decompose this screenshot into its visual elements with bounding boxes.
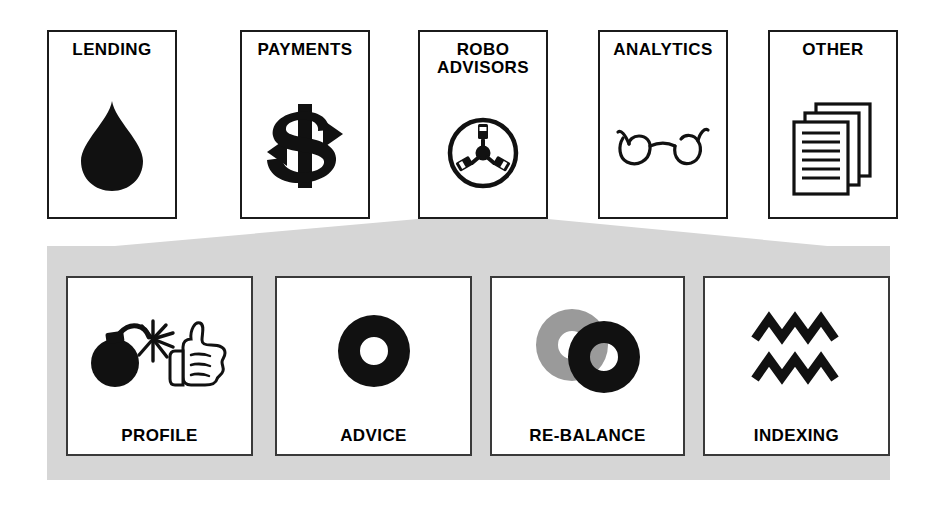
card-robo-advisors-title-line1: ROBO <box>457 40 510 59</box>
three-pin-socket-icon <box>420 102 546 203</box>
card-indexing[interactable]: INDEXING <box>703 276 890 456</box>
card-analytics-title: ANALYTICS <box>600 41 726 59</box>
card-lending[interactable]: LENDING <box>47 30 177 219</box>
water-drop-icon <box>49 84 175 207</box>
card-analytics[interactable]: ANALYTICS <box>598 30 728 219</box>
black-donut-icon <box>277 286 470 416</box>
card-profile-title: PROFILE <box>68 427 251 445</box>
eyeglasses-icon <box>600 84 726 207</box>
card-indexing-title: INDEXING <box>705 427 888 445</box>
card-advice-title: ADVICE <box>277 427 470 445</box>
diagram-canvas: LENDING PAYMENTS ROBO ADVISORS <box>0 0 933 508</box>
card-other-title: OTHER <box>770 41 896 59</box>
stacked-documents-icon <box>770 84 896 207</box>
two-overlapping-donuts-icon <box>492 286 683 416</box>
card-other[interactable]: OTHER <box>768 30 898 219</box>
card-robo-advisors-title: ROBO ADVISORS <box>420 41 546 78</box>
card-advice[interactable]: ADVICE <box>275 276 472 456</box>
card-rebalance[interactable]: RE-BALANCE <box>490 276 685 456</box>
card-lending-title: LENDING <box>49 41 175 59</box>
card-profile[interactable]: PROFILE <box>66 276 253 456</box>
bomb-and-thumbs-up-icon <box>68 286 251 416</box>
card-payments[interactable]: PAYMENTS <box>240 30 370 219</box>
card-robo-advisors[interactable]: ROBO ADVISORS <box>418 30 548 219</box>
dollar-sign-icon <box>242 84 368 207</box>
card-payments-title: PAYMENTS <box>242 41 368 59</box>
card-robo-advisors-title-line2: ADVISORS <box>437 58 529 77</box>
double-zigzag-icon <box>705 286 888 416</box>
card-rebalance-title: RE-BALANCE <box>492 427 683 445</box>
